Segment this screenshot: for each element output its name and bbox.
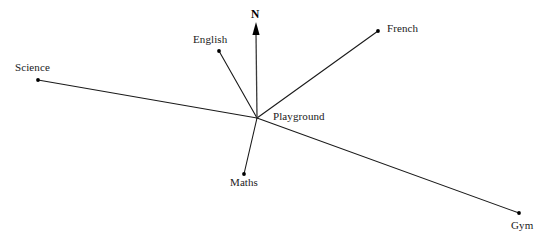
place-label-playground: Playground [273,110,325,123]
place-label-maths: Maths [230,176,258,189]
place-label-french: French [387,22,418,35]
endpoint-dot-english [217,49,221,53]
north-arrow-head [252,22,259,35]
endpoint-dot-gym [517,211,521,215]
ray-to-science [38,80,257,118]
bearings-diagram: N Playground Science English French Math… [0,0,552,242]
ray-to-english [219,51,257,118]
ray-to-french [257,31,378,118]
north-label: N [251,8,259,21]
place-label-english: English [193,33,227,46]
endpoint-dot-french [376,29,380,33]
endpoint-dot-science [36,78,40,82]
north-arrow-shaft [256,33,257,118]
place-label-science: Science [15,61,50,74]
north-arrow [252,22,259,118]
ray-to-gym [257,118,519,213]
place-label-gym: Gym [511,219,533,232]
ray-to-maths [244,118,257,174]
